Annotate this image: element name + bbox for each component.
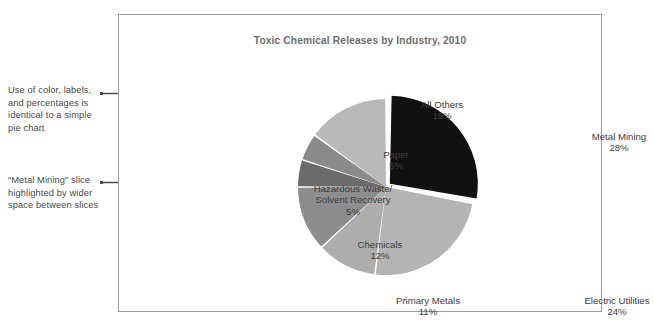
- pie-label-hazardous-waste-name: Hazardous Waste/ Solvent Recovery: [314, 183, 393, 206]
- pie-label-all-others-percent: 15%: [387, 110, 497, 122]
- pie-label-all-others: All Others 15%: [387, 87, 497, 133]
- pie-label-metal-mining-name: Metal Mining: [592, 131, 646, 142]
- pie-label-hazardous-waste-percent: 5%: [287, 206, 419, 218]
- pie-label-electric-utilities-percent: 24%: [547, 306, 654, 318]
- pie-label-chemicals-name: Chemicals: [358, 239, 403, 250]
- pie-label-paper-name: Paper: [383, 149, 409, 160]
- pie-label-electric-utilities-name: Electric Utilities: [584, 295, 649, 306]
- pie-label-electric-utilities: Electric Utilities 24%: [547, 283, 654, 324]
- pie-label-all-others-name: All Others: [421, 99, 463, 110]
- pie-label-chemicals: Chemicals 12%: [325, 227, 435, 273]
- annotation-note-metal-mining-highlight: “Metal Mining” slice highlighted by wide…: [8, 174, 104, 212]
- annotation-note-color-labels: Use of color, labels, and percentages is…: [8, 84, 104, 134]
- pie-label-metal-mining: Metal Mining 28%: [559, 119, 654, 165]
- pie-label-primary-metals-name: Primary Metals: [396, 295, 460, 306]
- pie-label-hazardous-waste: Hazardous Waste/ Solvent Recovery 5%: [287, 171, 419, 229]
- chart-frame: Toxic Chemical Releases by Industry, 201…: [118, 14, 602, 312]
- pie-label-chemicals-percent: 12%: [325, 250, 435, 262]
- pie-label-metal-mining-percent: 28%: [559, 142, 654, 154]
- pie-label-primary-metals: Primary Metals 11%: [363, 283, 493, 324]
- pie-label-primary-metals-percent: 11%: [363, 306, 493, 318]
